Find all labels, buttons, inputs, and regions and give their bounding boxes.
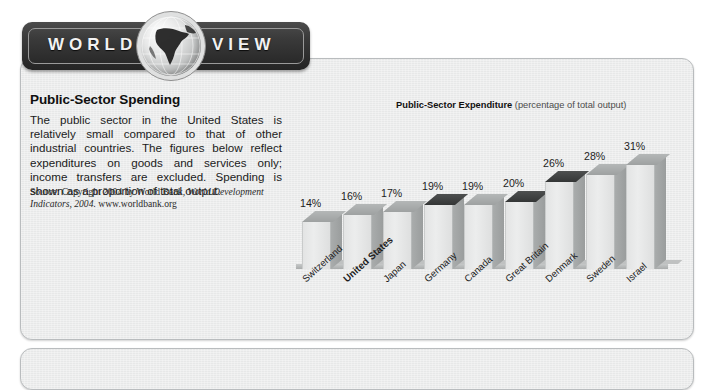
bar-value-label: 28% [584,150,605,162]
bar-value-label: 14% [300,197,321,209]
bar-israel: 31% [626,165,655,269]
bar-value-label: 19% [462,180,483,192]
bar-front-face [626,165,655,269]
bar-side-face [412,203,423,269]
bar-value-label: 20% [503,177,524,189]
bar-value-label: 31% [624,140,645,152]
public-sector-expenditure-chart: 14%16%17%19%19%20%26%28%31% SwitzerlandU… [290,110,682,325]
bar-side-face [655,156,666,269]
bar-side-face [615,166,626,269]
bar-value-label: 26% [543,157,564,169]
source-suffix: www.worldbank.org [96,198,177,209]
page-title: Public-Sector Spending [30,92,290,107]
chart-title-light: (percentage of total output) [512,100,626,110]
chart-title-strong: Public-Sector Expenditure [396,100,512,110]
source-prefix: Source: Copyright 2004 by World Bank, [30,186,188,197]
paper-texture-2 [21,349,693,389]
globe-africa-icon [136,11,206,81]
globe-sphere [141,16,201,76]
banner-word-view: VIEW [212,35,275,55]
banner-word-world: WORLD [48,35,137,55]
next-panel [20,348,694,390]
bar-value-label: 19% [422,180,443,192]
source-citation: Source: Copyright 2004 by World Bank, Wo… [30,186,286,211]
globe-continents-icon [141,16,201,76]
bar-value-label: 16% [341,190,362,202]
bar-value-label: 17% [381,187,402,199]
chart-title: Public-Sector Expenditure (percentage of… [396,100,626,110]
bar-side-face [493,196,504,269]
